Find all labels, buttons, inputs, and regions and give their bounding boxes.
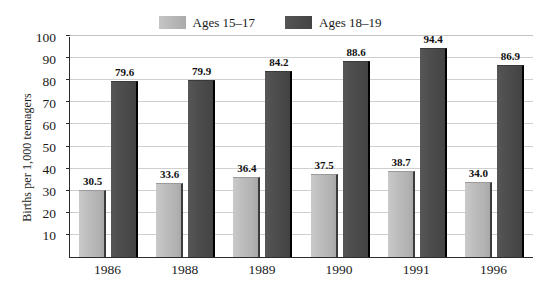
y-tick-label-60: 60 — [0, 119, 56, 133]
bar-rect — [79, 190, 106, 257]
bar-value-label: 84.2 — [269, 57, 288, 68]
y-tick-label-10: 10 — [0, 229, 56, 243]
bar-1988-series-2: 79.9 — [188, 80, 215, 257]
plot-area: 30.579.633.679.936.484.237.588.638.794.4… — [69, 37, 533, 258]
bar-group-1988: 33.679.9 — [147, 37, 224, 257]
x-axis-tick-labels: 198619881989199019911996 — [69, 263, 533, 285]
bar-1996-series-2: 86.9 — [497, 65, 524, 257]
y-tick-mark-100 — [66, 35, 70, 36]
y-tick-label-40: 40 — [0, 163, 56, 177]
bar-value-label: 36.4 — [237, 163, 256, 174]
bar-group-1991: 38.794.4 — [379, 37, 456, 257]
x-tick-label-1990: 1990 — [326, 263, 353, 277]
legend-label-ages-18-19: Ages 18–19 — [319, 16, 381, 29]
bar-value-label: 79.9 — [192, 66, 211, 77]
x-tick-label-1989: 1989 — [248, 263, 275, 277]
bar-group-1989: 36.484.2 — [224, 37, 301, 257]
legend-swatch-light-gray-icon — [159, 16, 186, 29]
bar-1986-series-2: 79.6 — [111, 81, 138, 257]
bar-value-label: 34.0 — [469, 168, 488, 179]
bar-value-label: 38.7 — [392, 157, 411, 168]
bar-1989-series-1: 36.4 — [233, 177, 260, 257]
gridline-100 — [70, 35, 533, 36]
bar-group-1990: 37.588.6 — [302, 37, 379, 257]
bar-rect — [156, 183, 183, 257]
legend-label-ages-15-17: Ages 15–17 — [193, 16, 255, 29]
bar-1989-series-2: 84.2 — [265, 71, 292, 257]
y-tick-label-100: 100 — [0, 30, 56, 44]
bar-value-label: 37.5 — [314, 160, 333, 171]
chart-legend: Ages 15–17 Ages 18–19 — [0, 10, 540, 34]
y-tick-label-90: 90 — [0, 52, 56, 66]
bar-rect — [265, 71, 292, 257]
legend-item-ages-18-19: Ages 18–19 — [285, 16, 381, 29]
y-tick-label-30: 30 — [0, 185, 56, 199]
bar-1991-series-2: 94.4 — [420, 48, 447, 257]
bar-1996-series-1: 34.0 — [465, 182, 492, 257]
bar-rect — [233, 177, 260, 257]
bar-value-label: 86.9 — [501, 51, 520, 62]
bar-value-label: 79.6 — [115, 67, 134, 78]
bar-rect — [388, 171, 415, 257]
bar-1988-series-1: 33.6 — [156, 183, 183, 257]
bar-group-1986: 30.579.6 — [70, 37, 147, 257]
bar-rect — [497, 65, 524, 257]
x-tick-label-1996: 1996 — [480, 263, 507, 277]
y-tick-label-70: 70 — [0, 97, 56, 111]
y-axis-tick-labels: 102030405060708090100 — [0, 37, 64, 258]
bar-value-label: 94.4 — [424, 34, 443, 45]
legend-item-ages-15-17: Ages 15–17 — [159, 16, 255, 29]
y-tick-label-80: 80 — [0, 74, 56, 88]
bar-1990-series-2: 88.6 — [343, 61, 370, 257]
bar-rect — [111, 81, 138, 257]
y-tick-label-50: 50 — [0, 141, 56, 155]
bar-chart: Ages 15–17 Ages 18–19 Births per 1,000 t… — [0, 0, 540, 291]
legend-swatch-dark-gray-icon — [285, 16, 312, 29]
bar-1990-series-1: 37.5 — [311, 174, 338, 257]
bar-rect — [465, 182, 492, 257]
x-tick-label-1991: 1991 — [403, 263, 430, 277]
bar-value-label: 30.5 — [83, 176, 102, 187]
bar-rect — [343, 61, 370, 257]
bar-1986-series-1: 30.5 — [79, 190, 106, 257]
x-tick-label-1988: 1988 — [171, 263, 198, 277]
y-tick-label-20: 20 — [0, 207, 56, 221]
x-tick-label-1986: 1986 — [94, 263, 121, 277]
bar-group-1996: 34.086.9 — [456, 37, 533, 257]
bar-rect — [420, 48, 447, 257]
bar-1991-series-1: 38.7 — [388, 171, 415, 257]
bar-rect — [311, 174, 338, 257]
bar-rect — [188, 80, 215, 257]
bar-value-label: 88.6 — [346, 47, 365, 58]
bar-value-label: 33.6 — [160, 169, 179, 180]
